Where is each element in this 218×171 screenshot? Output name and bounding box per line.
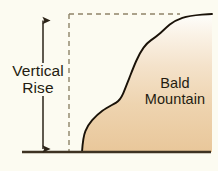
vertical-rise-label-line2: Rise <box>0 80 76 97</box>
bald-mountain-label-line1: Bald <box>132 76 218 92</box>
vertical-rise-label-line1: Vertical <box>0 63 76 80</box>
vertical-rise-diagram: Vertical Rise Bald Mountain <box>0 0 218 171</box>
vertical-rise-label: Vertical Rise <box>0 63 76 96</box>
bald-mountain-label-line2: Mountain <box>132 92 218 108</box>
bald-mountain-label: Bald Mountain <box>132 76 218 107</box>
